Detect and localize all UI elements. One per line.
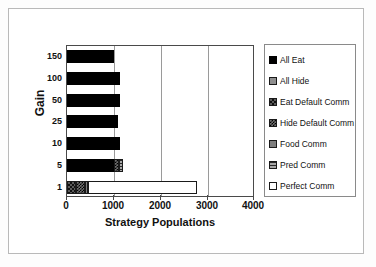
bar-segment — [67, 159, 114, 172]
y-tick-label: 5 — [22, 160, 62, 170]
bar-row — [67, 68, 120, 90]
bar-segment — [67, 72, 120, 85]
y-tick-label: 50 — [22, 95, 62, 105]
bar-row — [67, 46, 114, 68]
legend-swatch-icon — [269, 56, 277, 64]
bar-segment — [67, 94, 120, 107]
y-axis-ticks: 150 100 50 25 10 5 1 — [20, 45, 62, 197]
bar-row — [67, 111, 118, 133]
y-tick-label: 25 — [22, 116, 62, 126]
legend-item-label: All Eat — [280, 56, 305, 65]
x-tick-label: 3000 — [185, 200, 229, 212]
y-tick-label: 100 — [22, 73, 62, 83]
x-tick-label: 0 — [44, 200, 88, 212]
bar-row — [67, 176, 197, 198]
bar-row — [67, 89, 120, 111]
x-axis-title: Strategy Populations — [46, 216, 274, 228]
legend-swatch-icon — [269, 119, 277, 127]
legend-swatch-icon — [269, 161, 277, 169]
bar-segment — [119, 159, 123, 172]
legend-swatch-icon — [269, 98, 277, 106]
x-axis-ticks: 0 1000 2000 3000 4000 — [66, 200, 254, 214]
legend-item[interactable]: Pred Comm — [269, 155, 352, 175]
legend-item-label: Perfect Comm — [280, 182, 334, 191]
legend-item-label: Pred Comm — [280, 161, 325, 170]
y-tick-label: 10 — [22, 138, 62, 148]
legend-item-label: Food Comm — [280, 140, 327, 149]
x-tick-label: 4000 — [231, 200, 275, 212]
legend-item-label: Eat Default Comm — [280, 98, 349, 107]
bar-segment — [88, 181, 197, 194]
chart-figure: Gain 150 100 50 25 10 5 1 0 1000 2000 30… — [0, 0, 376, 267]
plot-area — [66, 45, 254, 197]
legend-swatch-icon — [269, 182, 277, 190]
bar-segment — [67, 50, 114, 63]
bar-row — [67, 155, 123, 177]
x-tick-label: 2000 — [138, 200, 182, 212]
legend-swatch-icon — [269, 77, 277, 85]
legend-item[interactable]: Food Comm — [269, 134, 352, 154]
legend-item-label: Hide Default Comm — [280, 119, 354, 128]
legend-item[interactable]: Eat Default Comm — [269, 92, 352, 112]
legend-item[interactable]: Perfect Comm — [269, 176, 352, 196]
bar-segment — [67, 115, 118, 128]
bar-series-container — [67, 46, 253, 196]
bar-row — [67, 133, 120, 155]
legend-item[interactable]: All Eat — [269, 50, 352, 70]
legend-item-label: All Hide — [280, 77, 309, 86]
bar-segment — [67, 137, 120, 150]
y-tick-label: 1 — [22, 182, 62, 192]
legend-item[interactable]: All Hide — [269, 71, 352, 91]
bar-segment — [67, 181, 76, 194]
chart-legend: All EatAll HideEat Default CommHide Defa… — [264, 44, 356, 197]
legend-item[interactable]: Hide Default Comm — [269, 113, 352, 133]
y-tick-label: 150 — [22, 51, 62, 61]
legend-swatch-icon — [269, 140, 277, 148]
x-tick-label: 1000 — [91, 200, 135, 212]
bar-segment — [76, 181, 84, 194]
